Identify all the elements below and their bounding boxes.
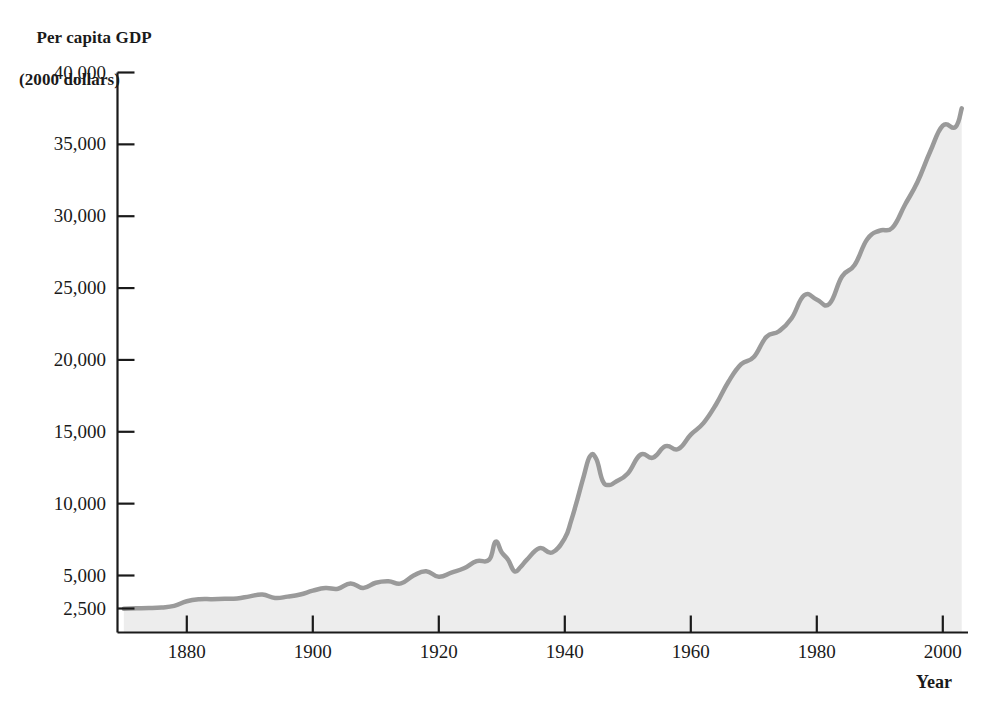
area-fill-group bbox=[124, 108, 962, 632]
chart-figure: Per capita GDP (2000 dollars) Year 40,00… bbox=[0, 0, 995, 716]
area-fill-path bbox=[124, 108, 962, 632]
y-axis-ticks bbox=[118, 73, 135, 609]
chart-plot-area bbox=[0, 0, 995, 716]
